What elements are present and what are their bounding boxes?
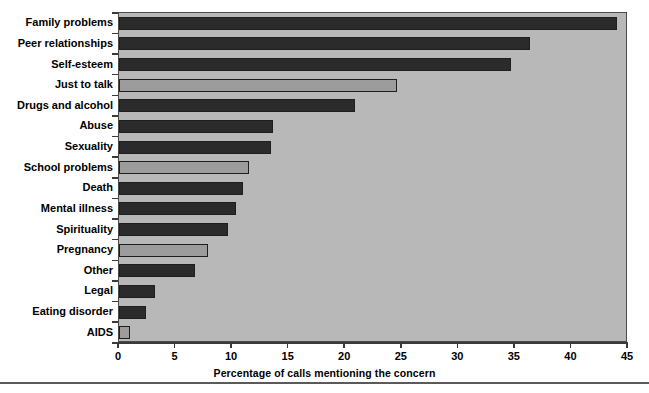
bar xyxy=(119,326,130,339)
x-tick-label: 40 xyxy=(550,350,590,363)
bar-fill xyxy=(119,161,249,174)
category-tick xyxy=(112,33,118,35)
bar-fill xyxy=(119,37,530,50)
category-label: Drugs and alcohol xyxy=(0,99,113,111)
category-tick xyxy=(112,74,118,76)
category-label: Spirituality xyxy=(0,223,113,235)
x-tick-label: 30 xyxy=(437,350,477,363)
category-label: Abuse xyxy=(0,119,113,131)
bar xyxy=(119,79,397,92)
category-label: AIDS xyxy=(0,326,113,338)
bar xyxy=(119,182,243,195)
x-tick xyxy=(513,342,515,348)
x-tick-label: 10 xyxy=(211,350,251,363)
category-tick xyxy=(112,12,118,14)
bar xyxy=(119,37,530,50)
category-tick xyxy=(112,280,118,282)
category-label: Self-esteem xyxy=(0,58,113,70)
bar xyxy=(119,58,511,71)
x-tick xyxy=(626,342,628,348)
category-label: Family problems xyxy=(0,16,113,28)
bar xyxy=(119,161,249,174)
bar xyxy=(119,244,208,257)
x-tick-label: 0 xyxy=(98,350,138,363)
x-tick xyxy=(230,342,232,348)
bar-fill xyxy=(119,141,271,154)
bar-fill xyxy=(119,264,195,277)
bar-fill xyxy=(119,285,155,298)
x-tick xyxy=(117,342,119,348)
x-tick-label: 20 xyxy=(324,350,364,363)
category-tick xyxy=(112,95,118,97)
bar xyxy=(119,17,617,30)
x-tick xyxy=(343,342,345,348)
bar xyxy=(119,99,355,112)
x-tick-label: 25 xyxy=(381,350,421,363)
x-tick xyxy=(287,342,289,348)
category-tick xyxy=(112,218,118,220)
x-tick-label: 35 xyxy=(494,350,534,363)
category-label: Mental illness xyxy=(0,202,113,214)
category-label: Sexuality xyxy=(0,140,113,152)
category-tick xyxy=(112,198,118,200)
category-tick xyxy=(112,136,118,138)
bar-fill xyxy=(119,244,208,257)
x-tick xyxy=(400,342,402,348)
category-label: Eating disorder xyxy=(0,305,113,317)
bar-fill xyxy=(119,306,146,319)
category-tick xyxy=(112,115,118,117)
bar-fill xyxy=(119,202,236,215)
x-tick xyxy=(174,342,176,348)
bar xyxy=(119,264,195,277)
bar xyxy=(119,306,146,319)
category-tick xyxy=(112,321,118,323)
x-tick-label: 45 xyxy=(607,350,647,363)
category-label: Other xyxy=(0,264,113,276)
category-label: Pregnancy xyxy=(0,243,113,255)
x-tick-label: 15 xyxy=(268,350,308,363)
category-label: Just to talk xyxy=(0,78,113,90)
category-tick xyxy=(112,239,118,241)
bar-fill xyxy=(119,99,355,112)
bar-fill xyxy=(119,17,617,30)
bar-fill xyxy=(119,223,228,236)
category-axis-labels: Family problemsPeer relationshipsSelf-es… xyxy=(0,12,113,342)
x-tick xyxy=(457,342,459,348)
bar-chart-figure: Family problemsPeer relationshipsSelf-es… xyxy=(0,0,649,393)
category-label: Legal xyxy=(0,284,113,296)
bar-fill xyxy=(119,326,130,339)
x-axis-line xyxy=(118,342,627,344)
category-tick xyxy=(112,177,118,179)
bar xyxy=(119,285,155,298)
x-tick-label: 5 xyxy=(155,350,195,363)
category-tick xyxy=(112,260,118,262)
bar xyxy=(119,223,228,236)
bar-fill xyxy=(119,120,273,133)
category-tick xyxy=(112,301,118,303)
category-tick xyxy=(112,53,118,55)
bottom-divider xyxy=(0,382,649,384)
x-tick xyxy=(570,342,572,348)
category-label: School problems xyxy=(0,161,113,173)
bar xyxy=(119,202,236,215)
bar xyxy=(119,141,271,154)
bar-fill xyxy=(119,79,397,92)
bar xyxy=(119,120,273,133)
x-axis-title: Percentage of calls mentioning the conce… xyxy=(0,367,649,379)
bar-fill xyxy=(119,58,511,71)
category-label: Death xyxy=(0,181,113,193)
bar-fill xyxy=(119,182,243,195)
plot-area xyxy=(118,12,627,342)
category-tick xyxy=(112,156,118,158)
category-label: Peer relationships xyxy=(0,37,113,49)
